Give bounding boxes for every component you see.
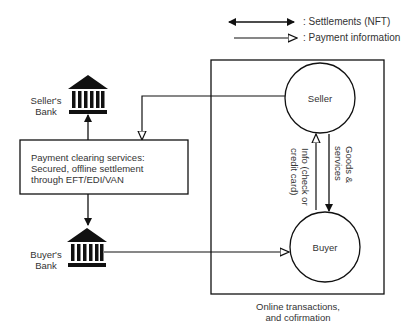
info-label: Info (check or credit card): [289, 148, 311, 206]
legend-settlements-label: : Settlements (NFT): [303, 16, 390, 27]
clearing-box-text: Payment clearing services: Secured, offl…: [31, 152, 145, 185]
caption-line1: Online transactions,: [243, 301, 353, 312]
info-line2: credit card): [289, 148, 300, 196]
buyer-bank-line2: Bank: [26, 260, 66, 271]
info-line1: Info (check or: [300, 148, 311, 206]
goods-services-label: Goods & services: [333, 146, 355, 183]
legend: [229, 22, 297, 38]
buyer-bank-line1: Buyer's: [26, 249, 66, 260]
seller-label: Seller: [300, 93, 340, 104]
seller-bank-icon: [68, 75, 108, 114]
clearing-line2: Secured, offline settlement: [31, 163, 145, 174]
goods-line2: services: [333, 146, 344, 181]
legend-payment-info-label: : Payment information: [303, 32, 400, 43]
seller-bank-line1: Seller's: [26, 95, 66, 106]
seller-bank-label: Seller's Bank: [26, 95, 66, 117]
seller-bank-line2: Bank: [26, 106, 66, 117]
buyer-label: Buyer: [305, 242, 345, 253]
clearing-line1: Payment clearing services:: [31, 152, 145, 163]
buyer-bank-icon: [67, 228, 107, 267]
goods-line1: Goods &: [344, 146, 355, 183]
seller-to-clearing-arrow: [142, 96, 285, 140]
online-transactions-caption: Online transactions, and cofirmation: [243, 301, 353, 323]
buyer-bank-label: Buyer's Bank: [26, 249, 66, 271]
clearing-line3: through EFT/EDI/VAN: [31, 174, 145, 185]
caption-line2: and cofirmation: [243, 312, 353, 323]
